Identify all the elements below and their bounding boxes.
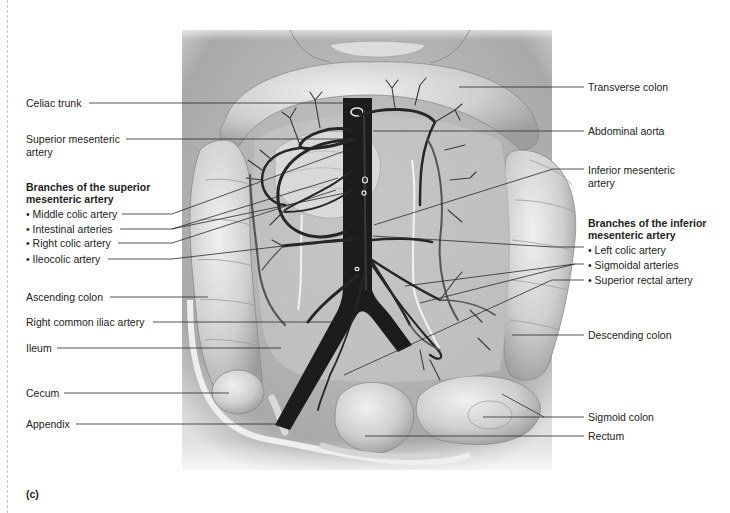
mesentery-bed [253,116,510,382]
label-left-colic-artery: Left colic artery [588,244,666,257]
label-middle-colic-artery: Middle colic artery [26,208,117,221]
panel-letter: (c) [26,488,39,500]
label-superior-mesenteric-artery-line1: Superior mesenteric [26,133,120,146]
heading-ima-branches-line1: Branches of the inferior [588,217,706,230]
figure-stage: Celiac trunk Superior mesenteric artery … [0,0,730,513]
heading-sma-branches-line2: mesenteric artery [26,193,114,206]
label-inferior-mesenteric-artery-line2: artery [588,177,615,190]
sigmoid-colon [416,376,540,445]
label-abdominal-aorta: Abdominal aorta [588,125,664,138]
label-celiac-trunk: Celiac trunk [26,97,81,110]
label-superior-mesenteric-artery-line2: artery [26,146,53,159]
label-ileocolic-artery: Ileocolic artery [26,253,100,266]
label-sigmoid-colon: Sigmoid colon [588,411,654,424]
label-rectum: Rectum [588,430,624,443]
heading-sma-branches-line1: Branches of the superior [26,181,150,194]
label-ileum: Ileum [26,342,52,355]
label-intestinal-arteries: Intestinal arteries [26,223,113,236]
label-descending-colon: Descending colon [588,329,671,342]
label-inferior-mesenteric-artery-line1: Inferior mesenteric [588,164,675,177]
label-appendix: Appendix [26,418,70,431]
label-cecum: Cecum [26,387,59,400]
label-transverse-colon: Transverse colon [588,81,668,94]
label-ascending-colon: Ascending colon [26,291,103,304]
label-sigmoidal-arteries: Sigmoidal arteries [588,259,679,272]
label-superior-rectal-artery: Superior rectal artery [588,274,693,287]
label-right-common-iliac-artery: Right common iliac artery [26,316,144,329]
label-right-colic-artery: Right colic artery [26,237,111,250]
heading-ima-branches-line2: mesenteric artery [588,229,676,242]
